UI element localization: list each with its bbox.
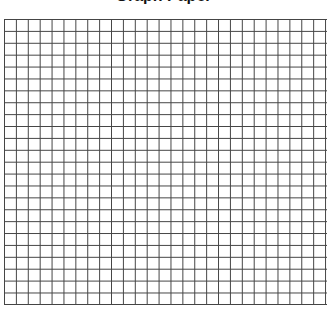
- title-fragment: •: [276, 0, 282, 4]
- graph-paper-grid: [4, 19, 327, 305]
